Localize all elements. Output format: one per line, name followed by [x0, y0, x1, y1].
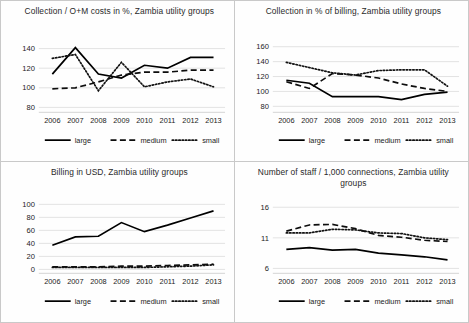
x-tick-label: 2008: [324, 277, 340, 286]
legend-label-small: small: [436, 135, 454, 144]
x-tick-label: 2013: [205, 277, 221, 286]
x-tick-label: 2012: [416, 277, 432, 286]
x-tick-label: 2007: [301, 116, 317, 125]
legend-label-medium: medium: [140, 296, 166, 305]
legend-label-medium: medium: [374, 296, 400, 305]
series-line-medium: [52, 264, 213, 267]
plot-area: 8010012014016020062007200820092010201120…: [235, 1, 468, 161]
x-tick-label: 2010: [370, 277, 386, 286]
y-tick-label: 11: [261, 233, 269, 242]
x-tick-label: 2013: [439, 277, 455, 286]
x-tick-label: 2012: [182, 277, 198, 286]
y-tick-label: 120: [22, 63, 35, 72]
x-tick-label: 2007: [67, 277, 83, 286]
x-tick-label: 2009: [347, 277, 363, 286]
x-tick-label: 2012: [182, 116, 198, 125]
legend-label-small: small: [202, 296, 220, 305]
y-tick-label: 20: [26, 252, 34, 261]
x-tick-label: 2010: [370, 116, 386, 125]
x-tick-label: 2012: [416, 116, 432, 125]
x-tick-label: 2008: [90, 116, 106, 125]
plot-area: 0204060801002006200720082009201020112012…: [1, 162, 234, 322]
y-tick-label: 0: [30, 265, 34, 274]
x-tick-label: 2008: [90, 277, 106, 286]
y-tick-label: 100: [22, 83, 35, 92]
plot-area: 8010012014020062007200820092010201120122…: [1, 1, 234, 161]
x-tick-label: 2008: [324, 116, 340, 125]
x-tick-label: 2006: [44, 116, 60, 125]
legend-label-small: small: [202, 135, 220, 144]
x-tick-label: 2010: [136, 277, 152, 286]
y-tick-label: 16: [260, 202, 268, 211]
plot-area: 6111620062007200820092010201120122013lar…: [235, 162, 468, 322]
x-tick-label: 2006: [278, 277, 294, 286]
series-line-large: [286, 247, 447, 259]
y-tick-label: 80: [26, 103, 34, 112]
x-tick-label: 2006: [44, 277, 60, 286]
x-tick-label: 2011: [159, 277, 175, 286]
y-tick-label: 160: [256, 42, 269, 51]
chart-panel-collection_billing: Collection in % of billing, Zambia utili…: [234, 0, 469, 162]
chart-panel-billing_usd: Billing in USD, Zambia utility groups020…: [0, 161, 235, 323]
x-tick-label: 2011: [393, 277, 409, 286]
chart-panel-staff_per_1000: Number of staff / 1,000 connections, Zam…: [234, 161, 469, 323]
legend-label-large: large: [74, 135, 90, 144]
x-tick-label: 2006: [278, 116, 294, 125]
legend-label-medium: medium: [374, 135, 400, 144]
x-tick-label: 2009: [347, 116, 363, 125]
y-tick-label: 6: [264, 264, 268, 273]
x-tick-label: 2013: [205, 116, 221, 125]
y-tick-label: 60: [26, 226, 34, 235]
x-tick-label: 2009: [113, 116, 129, 125]
x-tick-label: 2007: [301, 277, 317, 286]
series-line-small: [52, 54, 213, 90]
chart-panel-collection_om: Collection / O+M costs in %, Zambia util…: [0, 0, 235, 162]
x-tick-label: 2013: [439, 116, 455, 125]
y-tick-label: 100: [22, 200, 35, 209]
x-tick-label: 2011: [393, 116, 409, 125]
y-tick-label: 80: [26, 213, 34, 222]
series-line-small: [286, 62, 447, 86]
x-tick-label: 2007: [67, 116, 83, 125]
y-tick-label: 120: [256, 72, 269, 81]
legend-label-large: large: [308, 296, 324, 305]
y-tick-label: 80: [260, 102, 268, 111]
series-line-large: [52, 210, 213, 244]
y-tick-label: 140: [22, 44, 35, 53]
x-tick-label: 2011: [159, 116, 175, 125]
x-tick-label: 2010: [136, 116, 152, 125]
legend-label-large: large: [308, 135, 324, 144]
y-tick-label: 140: [256, 57, 269, 66]
legend-label-small: small: [436, 296, 454, 305]
y-tick-label: 100: [256, 87, 269, 96]
x-tick-label: 2009: [113, 277, 129, 286]
y-tick-label: 40: [26, 239, 34, 248]
series-line-large: [286, 80, 447, 99]
legend-label-large: large: [74, 296, 90, 305]
legend-label-medium: medium: [140, 135, 166, 144]
